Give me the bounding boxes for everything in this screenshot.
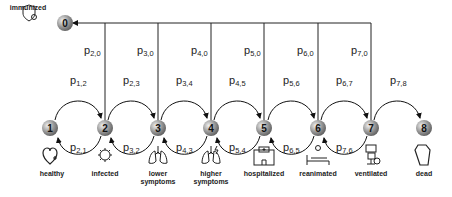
svg-text:2: 2 bbox=[102, 123, 108, 134]
svg-text:8: 8 bbox=[421, 123, 427, 134]
label-p70: p7,0 bbox=[351, 44, 368, 58]
label-p50: p5,0 bbox=[244, 44, 261, 58]
node-2: 2 bbox=[97, 120, 113, 136]
hospital-icon bbox=[254, 147, 274, 165]
label-p12: p1,2 bbox=[70, 74, 87, 88]
node-6: 6 bbox=[310, 120, 326, 136]
node-1: 1 bbox=[42, 120, 58, 136]
forward-arcs bbox=[55, 101, 420, 120]
svg-text:7: 7 bbox=[368, 123, 374, 134]
label-p60: p6,0 bbox=[297, 44, 314, 58]
node-7: 7 bbox=[363, 120, 379, 136]
svg-text:1: 1 bbox=[47, 123, 53, 134]
hospital-bed-icon bbox=[307, 146, 329, 166]
label-p45: p4,5 bbox=[229, 74, 246, 88]
svg-text:3: 3 bbox=[155, 123, 161, 134]
coffin-icon bbox=[415, 145, 430, 165]
label-p23: p2,3 bbox=[123, 74, 140, 88]
label-p40: p4,0 bbox=[191, 44, 208, 58]
backward-arcs bbox=[58, 136, 367, 154]
svg-text:0: 0 bbox=[62, 18, 68, 29]
markov-diagram: 0 1 2 3 4 5 6 7 8 p2,0 p3,0 p4,0 p5,0 p6… bbox=[0, 0, 452, 197]
lungs-icon bbox=[149, 146, 167, 163]
lungs-lightning-icon bbox=[202, 146, 220, 163]
label-p76: p7,6 bbox=[336, 141, 353, 155]
node-8: 8 bbox=[416, 120, 432, 136]
label-p30: p3,0 bbox=[137, 44, 154, 58]
label-p32: p3,2 bbox=[123, 141, 140, 155]
label-p20: p2,0 bbox=[84, 44, 101, 58]
immunized-label: immunized bbox=[6, 4, 50, 11]
virus-icon bbox=[98, 148, 112, 162]
label-p56: p5,6 bbox=[283, 74, 300, 88]
label-p67: p6,7 bbox=[336, 74, 353, 88]
svg-text:6: 6 bbox=[315, 123, 321, 134]
svg-text:5: 5 bbox=[261, 123, 267, 134]
immunization-lines bbox=[73, 23, 371, 130]
state-dead: dead bbox=[389, 170, 452, 178]
label-p21: p2,1 bbox=[70, 141, 87, 155]
label-p65: p6,5 bbox=[283, 141, 300, 155]
label-p78: p7,8 bbox=[390, 74, 407, 88]
label-p43: p4,3 bbox=[176, 141, 193, 155]
heart-plus-icon bbox=[43, 148, 57, 164]
node-5: 5 bbox=[256, 120, 272, 136]
svg-text:4: 4 bbox=[208, 123, 214, 134]
node-3: 3 bbox=[150, 120, 166, 136]
label-p34: p3,4 bbox=[176, 74, 193, 88]
node-4: 4 bbox=[203, 120, 219, 136]
ventilator-icon bbox=[366, 145, 380, 164]
label-p54: p5,4 bbox=[229, 141, 246, 155]
node-0: 0 bbox=[57, 15, 73, 31]
